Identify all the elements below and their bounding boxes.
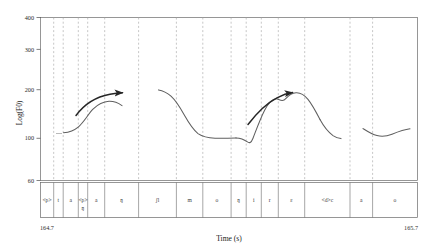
phoneme-label-16: o bbox=[394, 197, 397, 203]
y-tick-label-400: 400 bbox=[25, 14, 34, 21]
x-axis-start-label: 164.7 bbox=[40, 224, 54, 231]
y-axis-ticks bbox=[37, 18, 41, 181]
phoneme-label-3: <p> bbox=[78, 197, 87, 203]
y-tick-label-200: 200 bbox=[25, 86, 34, 93]
y-tick-label-300: 300 bbox=[25, 46, 34, 53]
phoneme-label-0: <p> bbox=[42, 197, 51, 203]
phoneme-label-10: ŋ bbox=[237, 197, 240, 203]
x-axis-title: Time (s) bbox=[216, 234, 242, 243]
phoneme-label-14: <d>c bbox=[322, 197, 334, 203]
y-tick-label-60: 60 bbox=[28, 177, 34, 184]
x-axis-end-label: 165.7 bbox=[404, 224, 418, 231]
phoneme-tier: <p> t a <p> ŋ a ŋ ʃl m o ŋ i r ɛ <d>c a … bbox=[41, 183, 418, 218]
phoneme-label-4: ŋ bbox=[82, 205, 85, 211]
f0-contour-figure: 400 300 200 100 60 Log(F0) bbox=[0, 0, 438, 251]
phoneme-label-8: m bbox=[187, 197, 192, 203]
y-tick-label-100: 100 bbox=[25, 134, 34, 141]
phoneme-label-7: ʃl bbox=[155, 197, 160, 203]
y-axis-title: Log(F0) bbox=[15, 100, 24, 125]
phoneme-label-12: r bbox=[269, 197, 271, 203]
phoneme-label-6: ŋ bbox=[120, 197, 123, 203]
phoneme-label-9: o bbox=[216, 197, 219, 203]
figure-canvas: 400 300 200 100 60 Log(F0) bbox=[0, 0, 438, 251]
